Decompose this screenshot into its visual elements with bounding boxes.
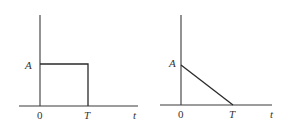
time-axis-label: t xyxy=(270,108,274,120)
end-time-label: T xyxy=(84,109,91,121)
pulse-signal xyxy=(40,64,88,106)
amplitude-label: A xyxy=(168,57,176,69)
end-time-label: T xyxy=(229,108,236,120)
ramp-signal xyxy=(181,65,233,105)
origin-label: 0 xyxy=(37,109,43,121)
amplitude-label: A xyxy=(24,59,32,71)
diagram-canvas: A 0 T t A 0 T t xyxy=(0,0,286,129)
rectangular-pulse-graph: A 0 T t xyxy=(19,15,138,121)
ramp-pulse-graph: A 0 T t xyxy=(160,15,274,120)
time-axis-label: t xyxy=(133,109,137,121)
origin-label: 0 xyxy=(178,108,184,120)
